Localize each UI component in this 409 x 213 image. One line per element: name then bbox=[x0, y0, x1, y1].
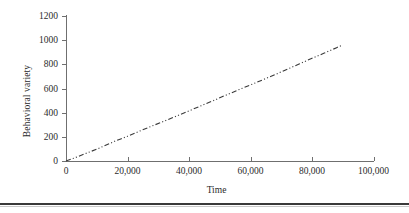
data-series-line bbox=[66, 45, 343, 161]
chart-figure: Behavioral variety 020040060080010001200… bbox=[0, 0, 409, 213]
footer-rule-secondary bbox=[0, 206, 409, 207]
x-axis-title-text: Time bbox=[207, 185, 227, 195]
x-axis-title: Time bbox=[0, 185, 409, 195]
footer-rule bbox=[0, 203, 409, 205]
plot-area bbox=[0, 0, 409, 213]
